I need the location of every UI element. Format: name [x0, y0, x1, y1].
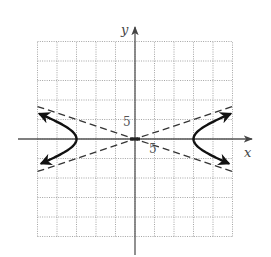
x-tick-label: 5 — [149, 142, 157, 156]
center-mark — [130, 137, 140, 140]
x-axis-label: x — [244, 145, 252, 160]
y-tick-label: 5 — [123, 115, 131, 129]
hyperbola-graph: y x 5 5 — [0, 0, 271, 257]
y-axis-label: y — [120, 22, 129, 37]
